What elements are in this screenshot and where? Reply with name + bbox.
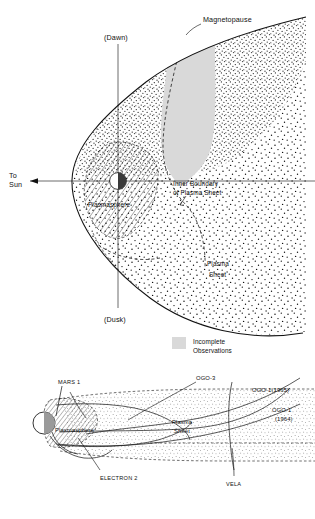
ogo-1-1964-label-line2: (1964) (275, 416, 293, 422)
plasma-sheet-label-top-line2: Sheet (209, 271, 226, 278)
bottom-panel: MARS 1 OGO-3 OGO-1(1965) OGO-1 (1964) EL… (33, 375, 315, 487)
magnetosphere-figure: Magnetopause (Dawn) (Dusk) To Sun Plasma… (0, 0, 315, 519)
figure-canvas: Magnetopause (Dawn) (Dusk) To Sun Plasma… (0, 0, 315, 519)
magnetopause-leader (186, 24, 201, 35)
to-sun-arrowhead (30, 178, 38, 184)
plasmasphere-label-top: Plasmasphere (88, 201, 130, 209)
inner-boundary-label-line2: of Plasma Sheet (173, 189, 222, 196)
plasma-sheet-label-lower-line2: Sheet (174, 428, 190, 434)
legend-label-line1: Incomplete (193, 338, 226, 346)
plasma-sheet-label-top-line1: Plasma (207, 260, 229, 267)
to-sun-label-line2: Sun (9, 180, 22, 189)
electron-2-label: ELECTRON 2 (100, 475, 138, 481)
mars-1-label: MARS 1 (58, 379, 80, 385)
plasma-sheet-band-lower (60, 390, 315, 460)
vela-label: VELA (226, 481, 241, 487)
legend-label-line2: Observations (193, 347, 232, 354)
dusk-label: (Dusk) (104, 315, 126, 324)
plasmasphere-label-lower: Plasmasphere (55, 427, 94, 433)
ogo-1-1964-label-line1: OGO-1 (272, 407, 291, 413)
plasma-sheet-label-lower-line1: Plasma (172, 419, 193, 425)
top-panel: Magnetopause (Dawn) (Dusk) To Sun Plasma… (9, 15, 315, 354)
dawn-label: (Dawn) (104, 33, 128, 42)
ogo-1-1965-label: OGO-1(1965) (252, 387, 289, 393)
to-sun-label-line1: To (9, 171, 17, 180)
ogo-3-label: OGO-3 (196, 375, 216, 381)
inner-boundary-label-line1: Inner Boundary (173, 180, 219, 188)
legend-swatch-incomplete (172, 337, 186, 349)
magnetopause-label: Magnetopause (203, 15, 252, 24)
